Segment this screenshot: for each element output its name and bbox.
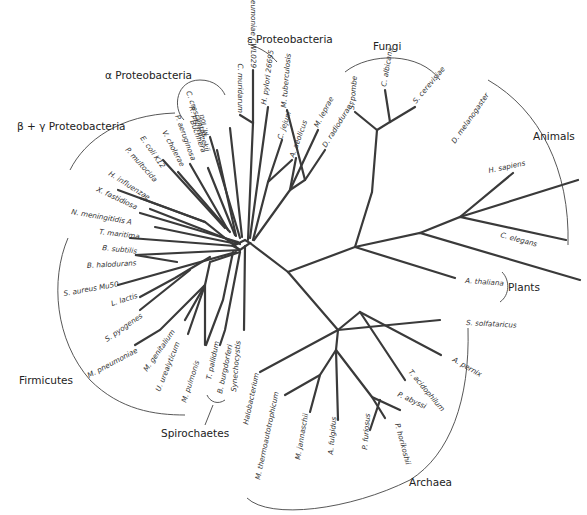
leaf-s-pombe: S. pombe	[347, 75, 359, 110]
group-label-epsilon: ε Proteobacteria	[247, 33, 333, 45]
leaf-b-subtilis: B. subtilis	[102, 243, 138, 256]
group-label-alpha: α Proteobacteria	[105, 69, 192, 81]
leaf-a-fulgidus: A. fulgidus	[326, 416, 338, 456]
leaf-n-meningitidis: N. meningitidis A	[71, 207, 133, 227]
leaf-h-sapiens: H. sapiens	[488, 158, 527, 175]
group-label-animals: Animals	[533, 130, 575, 142]
leaf-l-lactis: L. lactis	[110, 291, 139, 308]
leaf-c-albicans: C. albicans	[379, 47, 395, 87]
group-label-fungi: Fungi	[373, 40, 401, 52]
group-label-spirochaetes: Spirochaetes	[161, 427, 229, 439]
leaf-s-cerevisiae: S. cerevisiae	[411, 64, 448, 105]
leaf-b-halodurans: B. halodurans	[87, 258, 137, 270]
leaf-t-acidophilum: T. acidophilum	[406, 368, 446, 414]
leaf-m-tuberculosis: M. tuberculosis	[279, 53, 293, 108]
leaf-m-thermo: M. thermoautotrophicum	[253, 391, 280, 481]
arc-spirochaetes	[207, 395, 225, 402]
leaf-m-jannaschii: M. jannaschii	[293, 413, 310, 461]
leaf-d-melanogaster: D. melanogaster	[449, 90, 491, 145]
leaf-p-horikoshii: P. horikoshii	[393, 422, 413, 466]
group-label-archaea: Archaea	[409, 476, 452, 488]
leaf-s-solfataricus: S. solfataricus	[466, 318, 517, 330]
leaf-h-pylori: H. pylori 26695	[259, 49, 276, 105]
phylogenetic-tree: C. pneumoniae CWL029 C. muridarum H. pyl…	[0, 0, 587, 515]
leaf-s-aureus: S. aureus Mu50	[63, 279, 120, 298]
leaf-m-pulmonis: M. pulmonis	[179, 359, 201, 403]
group-label-firmicutes: Firmicutes	[19, 374, 73, 386]
leaf-m-pneumoniae: M. pneumoniae	[86, 345, 140, 379]
leaf-c-muridarum: C. muridarum	[236, 63, 245, 113]
leaf-a-thaliana: A. thaliana	[464, 276, 504, 288]
group-label-plants: Plants	[508, 281, 540, 293]
leaf-s-pyogenes: S. pyogenes	[103, 311, 144, 344]
leaf-t-maritima: T. maritima	[99, 227, 140, 241]
leaf-p-furiosus: P. furiosus	[360, 413, 372, 450]
arc-spirochaetes-pointer	[205, 405, 213, 425]
leaf-halobacterium: Halobacterium	[241, 372, 261, 426]
group-label-betagamma: β + γ Proteobacteria	[17, 120, 126, 132]
